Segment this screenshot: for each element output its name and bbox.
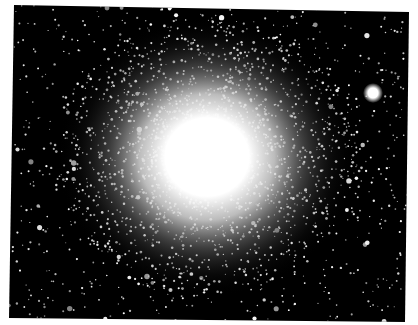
- bright-star: [363, 83, 383, 103]
- cluster-core: [57, 17, 357, 297]
- star-cluster-photo: [0, 0, 418, 325]
